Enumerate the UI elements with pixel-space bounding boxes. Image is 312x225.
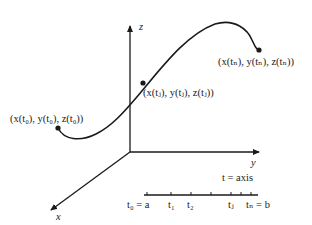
t-tick-label-tn: tₙ = b bbox=[246, 200, 270, 211]
end-point-label: (x(tₙ), y(tₙ), z(tₙ)) bbox=[218, 57, 294, 68]
space-curve bbox=[58, 22, 260, 138]
z-axis-label: z bbox=[139, 22, 143, 33]
y-axis-label: y bbox=[251, 158, 256, 169]
start-point-label: (x(t₀), y(t₀), z(t₀)) bbox=[10, 114, 83, 125]
t-axis-title: t = axis bbox=[222, 173, 253, 184]
x-axis bbox=[51, 152, 130, 210]
t-tick-label-tj: tⱼ bbox=[228, 200, 234, 211]
t-tick-label-t0: t₀ = a bbox=[127, 200, 149, 211]
start-point bbox=[55, 125, 60, 130]
t-tick-label-t2: t₂ bbox=[187, 200, 194, 211]
middle-point bbox=[140, 80, 145, 85]
middle-point-label: (x(tⱼ), y(tⱼ), z(tⱼ)) bbox=[143, 88, 214, 99]
x-axis-label: x bbox=[56, 212, 61, 223]
t-tick-label-t1: t₁ bbox=[168, 200, 175, 211]
end-point bbox=[256, 47, 261, 52]
